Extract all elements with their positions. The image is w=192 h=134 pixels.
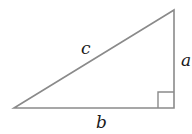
triangle — [14, 10, 174, 108]
label-c-hypotenuse: c — [81, 40, 91, 57]
label-b-horizontal-leg: b — [96, 114, 107, 131]
right-angle-marker — [158, 92, 174, 108]
label-a-vertical-leg: a — [181, 52, 191, 69]
